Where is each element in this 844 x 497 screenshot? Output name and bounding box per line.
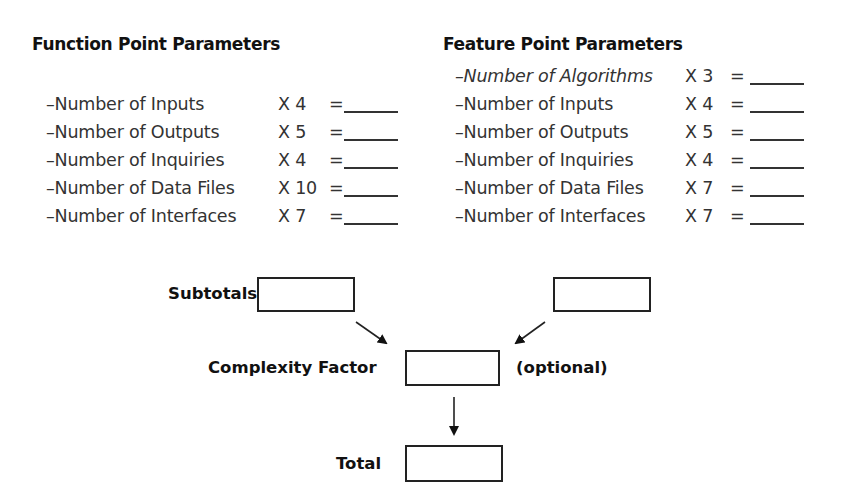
- flow-arrows: [0, 0, 844, 497]
- arrow-right-to-complexity-icon: [516, 322, 545, 343]
- arrow-left-to-complexity-icon: [356, 322, 386, 343]
